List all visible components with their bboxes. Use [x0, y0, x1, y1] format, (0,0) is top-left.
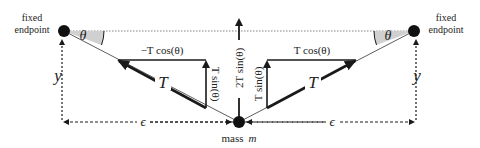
net-force-label: 2T sin(θ): [233, 48, 246, 89]
right-T-label: T: [308, 73, 319, 92]
right-T-sin-label: T sin(θ): [252, 66, 265, 101]
left-y-label: y: [52, 66, 62, 85]
mass-dot: [233, 116, 245, 128]
left-theta-label: θ: [80, 28, 87, 43]
right-angle-wedge: [374, 31, 414, 45]
left-endpoint-label-line2: endpoint: [15, 24, 50, 35]
right-epsilon-label: ϵ: [329, 114, 335, 129]
left-T-sin-label: T sin(θ): [209, 67, 222, 102]
left-endpoint-dot: [58, 25, 70, 37]
right-theta-label: θ: [385, 28, 392, 43]
right-y-label: y: [411, 66, 421, 85]
left-T-label: T: [158, 73, 169, 92]
right-endpoint-label-line2: endpoint: [429, 24, 464, 35]
left-epsilon-label: ϵ: [140, 114, 146, 129]
right-endpoint-label-line1: fixed: [436, 12, 457, 23]
tension-diagram: fixed endpoint fixed endpoint θ θ y y ϵ …: [0, 0, 480, 148]
left-endpoint-label-line1: fixed: [22, 12, 43, 23]
right-T-cos-label: T cos(θ): [294, 44, 331, 57]
right-endpoint-dot: [408, 25, 420, 37]
left-T-cos-label: −T cos(θ): [141, 44, 184, 57]
mass-label: massm: [222, 132, 257, 144]
